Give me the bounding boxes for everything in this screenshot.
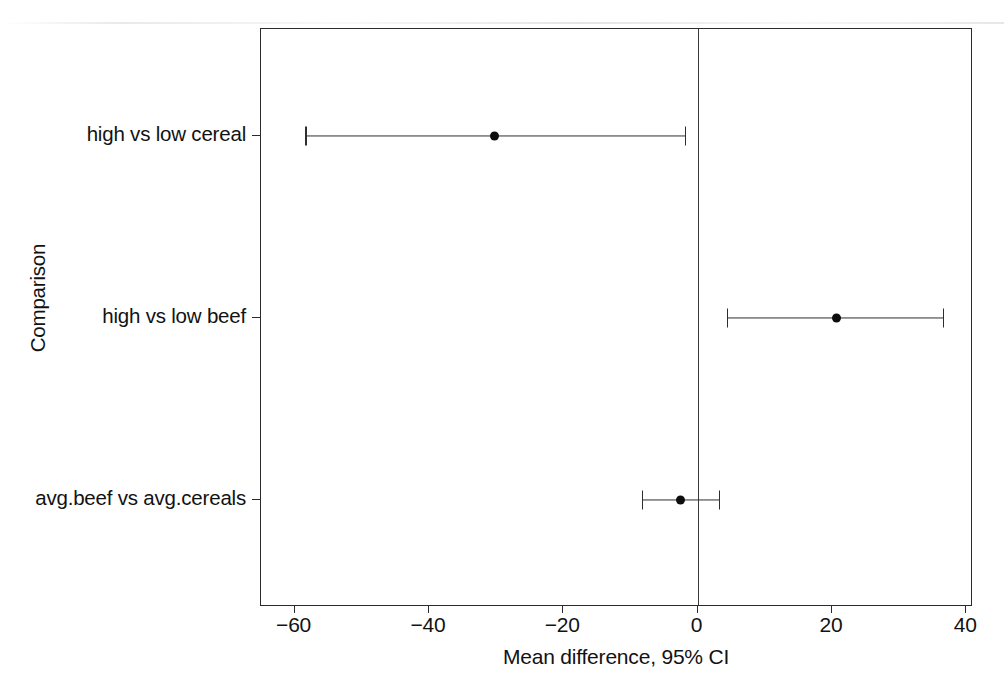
- x-axis-tick-label: −20: [522, 613, 602, 637]
- ci-high-cap: [943, 309, 944, 328]
- x-axis-tick-label: −60: [254, 613, 334, 637]
- y-axis-tick: [252, 499, 260, 500]
- x-axis-tick: [428, 606, 429, 613]
- estimate-point-marker: [676, 496, 685, 505]
- y-axis-tick: [252, 317, 260, 318]
- x-axis-tick: [294, 606, 295, 613]
- ci-low-cap: [727, 309, 728, 328]
- x-axis-tick: [562, 606, 563, 613]
- ci-high-cap: [685, 126, 686, 145]
- error-bar-row: [261, 487, 971, 513]
- estimate-point-marker: [832, 314, 841, 323]
- y-axis-title: Comparison: [26, 188, 50, 408]
- plot-inner: [261, 29, 971, 605]
- plot-area: [260, 28, 972, 606]
- forest-plot-figure: Mean difference, 95% CI Comparison −60−4…: [0, 0, 1004, 685]
- y-axis-category-label: avg.beef vs avg.cereals: [0, 486, 246, 510]
- ci-low-cap: [642, 491, 643, 510]
- y-axis-category-label: high vs low beef: [0, 304, 246, 328]
- y-axis-category-label: high vs low cereal: [0, 122, 246, 146]
- x-axis-tick-label: −40: [388, 613, 468, 637]
- x-axis-tick-label: 40: [925, 613, 1004, 637]
- x-axis-tick: [697, 606, 698, 613]
- x-axis-tick-label: 0: [657, 613, 737, 637]
- x-axis-title: Mean difference, 95% CI: [260, 645, 972, 669]
- x-axis-tick: [831, 606, 832, 613]
- ci-high-cap: [719, 491, 720, 510]
- error-bar-row: [261, 123, 971, 149]
- estimate-point-marker: [490, 131, 499, 140]
- x-axis-tick: [965, 606, 966, 613]
- x-axis-tick-label: 20: [791, 613, 871, 637]
- y-axis-tick: [252, 135, 260, 136]
- error-bar-row: [261, 305, 971, 331]
- ci-low-cap: [305, 126, 306, 145]
- scan-edge-artifact: [0, 22, 1004, 24]
